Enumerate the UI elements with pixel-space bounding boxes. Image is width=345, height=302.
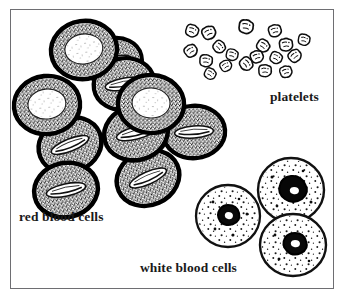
platelet-group xyxy=(182,19,311,82)
platelet xyxy=(200,24,218,41)
platelet xyxy=(279,38,293,52)
platelet xyxy=(199,54,213,67)
platelet xyxy=(268,50,284,66)
platelet xyxy=(279,64,294,79)
platelet xyxy=(267,23,282,38)
white-blood-cell xyxy=(258,158,324,222)
platelet xyxy=(203,66,218,81)
platelet xyxy=(182,42,199,59)
blood-cells-figure: red blood cells platelets white blood ce… xyxy=(0,0,345,302)
platelet xyxy=(211,38,228,55)
platelet xyxy=(297,33,311,46)
platelet xyxy=(238,19,254,35)
red-blood-cell xyxy=(117,74,185,134)
label-white-blood-cells: white blood cells xyxy=(140,261,237,275)
white-blood-cell xyxy=(260,214,326,276)
platelet xyxy=(259,65,272,77)
label-red-blood-cells: red blood cells xyxy=(19,210,104,224)
blood-cells-illustration xyxy=(0,0,345,302)
label-platelets: platelets xyxy=(270,90,319,104)
white-blood-cell-group xyxy=(196,158,326,276)
white-blood-cell xyxy=(196,185,260,247)
platelet xyxy=(184,23,200,39)
